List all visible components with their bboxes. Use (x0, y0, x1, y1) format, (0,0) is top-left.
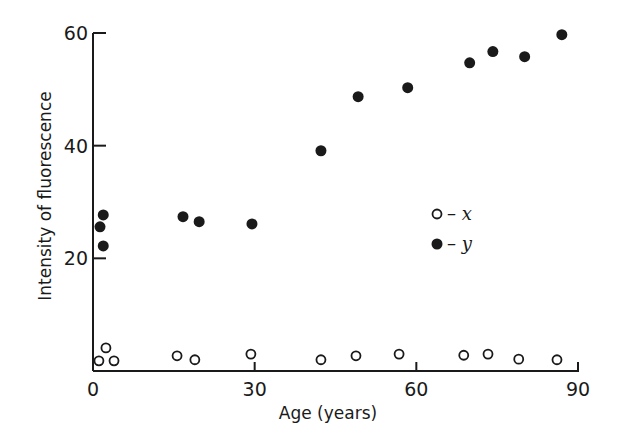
x-tick-label: 60 (404, 378, 428, 400)
legend-label-x: – x (447, 203, 472, 224)
data-point-y (519, 51, 530, 62)
legend-label-y: – y (447, 233, 473, 254)
data-point-x (484, 350, 493, 359)
legend-filled-circle-icon (432, 239, 443, 250)
data-point-x (246, 350, 255, 359)
legend-open-circle-icon (433, 210, 442, 219)
data-point-y (194, 216, 205, 227)
data-point-y (177, 211, 188, 222)
data-point-x (94, 356, 103, 365)
data-point-y (556, 29, 567, 40)
data-point-x (190, 355, 199, 364)
data-point-x (351, 351, 360, 360)
data-point-x (316, 355, 325, 364)
data-point-x (110, 356, 119, 365)
data-point-x (101, 343, 110, 352)
y-tick-label: 40 (64, 135, 88, 157)
data-point-y (98, 209, 109, 220)
data-point-y (402, 82, 413, 93)
data-point-x (395, 350, 404, 359)
legend: – x – y (432, 203, 473, 254)
data-point-y (315, 145, 326, 156)
data-point-y (95, 221, 106, 232)
data-point-y (98, 240, 109, 251)
x-axis-label: Age (years) (279, 403, 377, 423)
y-tick-label: 60 (64, 22, 88, 44)
x-tick-label: 30 (243, 378, 267, 400)
data-point-y (487, 46, 498, 57)
data-points (94, 29, 567, 365)
data-point-x (552, 355, 561, 364)
data-point-y (353, 91, 364, 102)
data-point-x (514, 355, 523, 364)
data-point-x (173, 351, 182, 360)
x-ticks: 0306090 (87, 362, 590, 400)
scatter-chart: 204060 0306090 Age (years) Intensity of … (0, 0, 621, 445)
data-point-y (246, 218, 257, 229)
data-point-y (464, 57, 475, 68)
x-tick-label: 0 (87, 378, 99, 400)
axes (93, 33, 579, 371)
y-axis-label: Intensity of fluorescence (35, 91, 55, 300)
y-tick-label: 20 (64, 247, 88, 269)
data-point-x (459, 351, 468, 360)
x-tick-label: 90 (566, 378, 590, 400)
